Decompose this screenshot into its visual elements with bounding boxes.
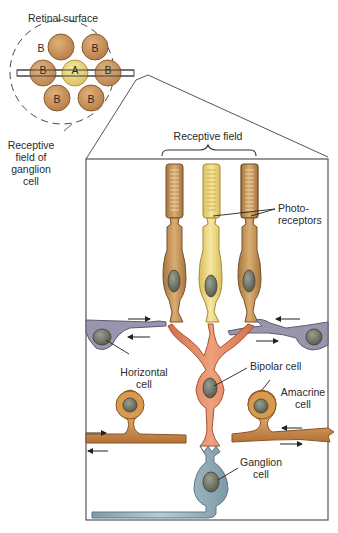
cell-label-b: B bbox=[102, 64, 114, 76]
retina-diagram bbox=[0, 0, 338, 533]
receptive-field-label: Receptive field bbox=[168, 130, 248, 142]
bipolar-cell-label: Bipolar cell bbox=[250, 360, 301, 372]
cell-label-b: B bbox=[51, 93, 63, 105]
cell-label-b: B bbox=[37, 64, 49, 76]
retinal-surface-title: Retinal surface bbox=[26, 12, 100, 24]
cell-label-b: B bbox=[35, 42, 47, 54]
receptive-field-bracket bbox=[162, 145, 256, 156]
cell-label-a: A bbox=[69, 64, 81, 76]
cell-label-b: B bbox=[89, 42, 101, 54]
cell-label-b: B bbox=[85, 93, 97, 105]
